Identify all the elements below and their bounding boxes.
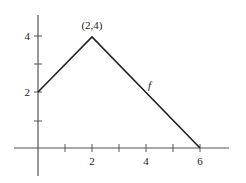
function-f-line bbox=[38, 37, 200, 148]
function-label: f bbox=[148, 79, 153, 91]
x-tick-label-6: 6 bbox=[197, 155, 203, 167]
point-label: (2,4) bbox=[81, 19, 102, 32]
chart: 2 4 6 4 2 (2,4) f bbox=[0, 0, 246, 183]
x-tick-label-2: 2 bbox=[89, 155, 95, 167]
y-tick-label-4: 4 bbox=[25, 30, 31, 42]
y-tick-label-2: 2 bbox=[25, 86, 31, 98]
x-tick-label-4: 4 bbox=[143, 155, 149, 167]
